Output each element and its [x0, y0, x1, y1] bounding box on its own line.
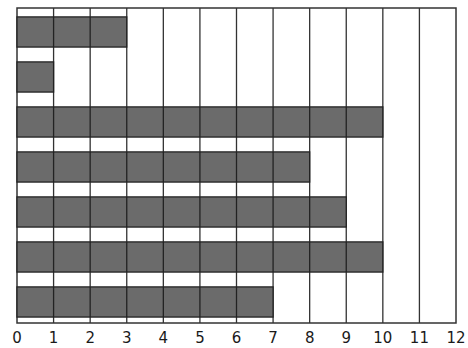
bar-rect: [17, 17, 127, 47]
x-axis-tick-labels: 0123456789101112: [12, 329, 465, 347]
bar: [17, 17, 127, 47]
x-tick-label: 8: [305, 329, 315, 347]
x-tick-label: 6: [232, 329, 242, 347]
x-tick-label: 1: [49, 329, 59, 347]
x-tick-label: 3: [122, 329, 132, 347]
bar: [17, 242, 383, 272]
bar-rect: [17, 197, 346, 227]
bar: [17, 197, 346, 227]
bar: [17, 62, 54, 92]
bar: [17, 287, 273, 317]
bar-rect: [17, 287, 273, 317]
x-tick-label: 0: [12, 329, 22, 347]
bar-chart: 0123456789101112: [0, 0, 468, 348]
x-tick-label: 11: [410, 329, 429, 347]
bar-rect: [17, 62, 54, 92]
x-tick-label: 10: [373, 329, 392, 347]
x-tick-label: 7: [268, 329, 278, 347]
bar: [17, 107, 383, 137]
x-tick-label: 9: [341, 329, 351, 347]
bar: [17, 152, 310, 182]
x-tick-label: 5: [195, 329, 205, 347]
x-tick-label: 4: [159, 329, 169, 347]
x-tick-label: 12: [446, 329, 465, 347]
x-tick-label: 2: [85, 329, 95, 347]
